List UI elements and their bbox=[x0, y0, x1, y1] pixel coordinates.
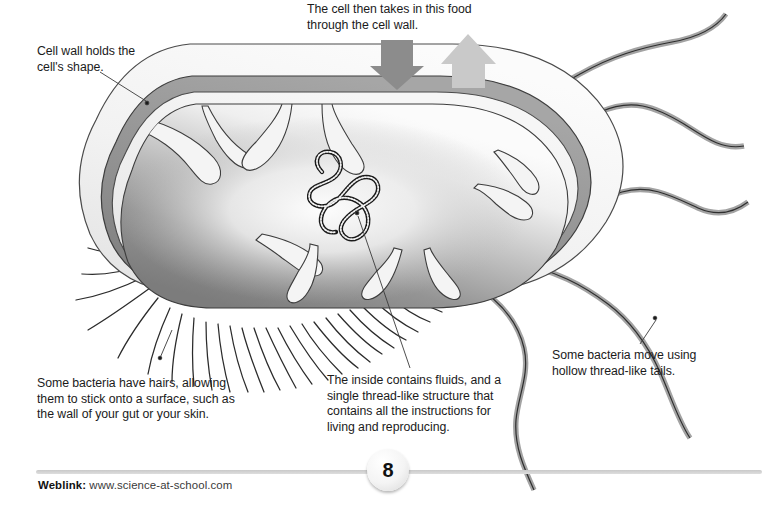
weblink-url: www.science-at-school.com bbox=[89, 479, 232, 491]
leader-tails bbox=[640, 320, 656, 344]
weblink-label: Weblink: bbox=[38, 479, 86, 491]
footer-weblink: Weblink: www.science-at-school.com bbox=[38, 479, 232, 491]
page-number-text: 8 bbox=[382, 459, 393, 482]
page-number-badge: 8 bbox=[367, 449, 409, 491]
page-root: Cell wall holds the cell's shape. The ce… bbox=[0, 0, 762, 512]
caption-hairs: Some bacteria have hairs, allowing them … bbox=[37, 376, 307, 423]
caption-takes-in-food: The cell then takes in this food through… bbox=[307, 2, 547, 33]
leader-hairs bbox=[160, 330, 172, 358]
caption-inside: The inside contains fluids, and a single… bbox=[327, 373, 542, 435]
caption-tails: Some bacteria move using hollow thread-l… bbox=[552, 348, 752, 379]
caption-cell-wall: Cell wall holds the cell's shape. bbox=[37, 44, 217, 75]
